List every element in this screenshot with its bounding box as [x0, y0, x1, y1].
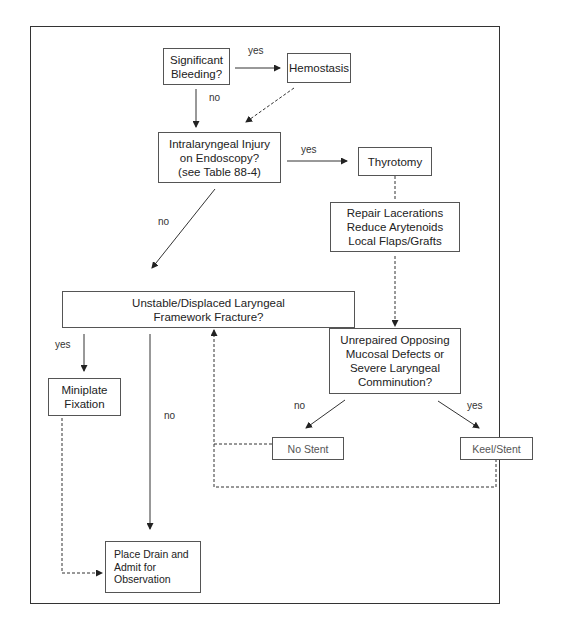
- label-unstable-no: no: [164, 410, 175, 421]
- edge-miniplate-placedrain: [62, 418, 102, 573]
- node-no-stent: No Stent: [272, 437, 344, 460]
- node-place-drain: Place Drain and Admit for Observation: [105, 541, 201, 593]
- node-unrepaired-defects: Unrepaired Opposing Mucosal Defects or S…: [329, 328, 461, 394]
- node-keel-stent: Keel/Stent: [460, 437, 533, 460]
- node-miniplate-fixation: Miniplate Fixation: [48, 378, 121, 416]
- edge-unrepaired-nostent: [306, 400, 345, 428]
- label-unstable-yes: yes: [55, 339, 71, 350]
- label-unrepaired-yes: yes: [467, 400, 483, 411]
- node-intralaryngeal-injury: Intralaryngeal Injury on Endoscopy? (see…: [158, 132, 281, 183]
- label-bleeding-no: no: [209, 92, 220, 103]
- label-bleeding-yes: yes: [248, 45, 264, 56]
- node-thyrotomy: Thyrotomy: [358, 147, 432, 176]
- node-hemostasis: Hemostasis: [287, 53, 351, 83]
- edge-intralaryngeal-unstable: [152, 189, 215, 268]
- edge-keelstent-unstable: [214, 444, 496, 487]
- label-intralaryngeal-yes: yes: [301, 144, 317, 155]
- node-unstable-fracture: Unstable/Displaced Laryngeal Framework F…: [62, 291, 355, 328]
- edge-hemostasis-intralaryngeal: [246, 88, 294, 122]
- node-significant-bleeding: Significant Bleeding?: [163, 48, 230, 85]
- edge-nostent-unstable: [214, 330, 272, 444]
- label-intralaryngeal-no: no: [158, 216, 169, 227]
- node-repair-lacerations: Repair Lacerations Reduce Arytenoids Loc…: [330, 202, 460, 252]
- label-unrepaired-no: no: [294, 400, 305, 411]
